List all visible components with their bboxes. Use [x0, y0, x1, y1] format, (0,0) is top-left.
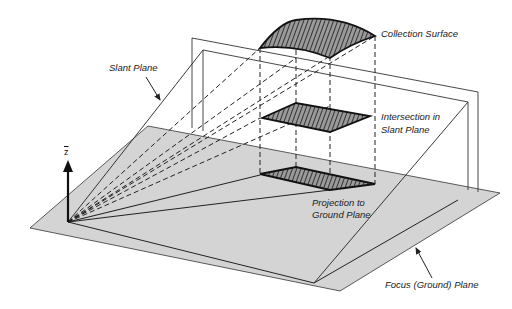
slant-plane-leader-arrow	[146, 77, 160, 100]
focus-ground-plane	[30, 126, 500, 291]
collection-surface-label: Collection Surface	[381, 28, 458, 40]
collection-surface	[260, 19, 375, 58]
z-axis-label: z	[64, 147, 69, 157]
ground-plane-leader-arrow	[416, 248, 432, 278]
intersection-label-line2: Slant Plane	[381, 124, 430, 136]
projection-label-line1: Projection to	[312, 197, 365, 209]
intersection-patch	[262, 103, 370, 132]
focus-ground-plane-label: Focus (Ground) Plane	[385, 279, 478, 291]
slant-plane-label: Slant Plane	[109, 62, 158, 74]
projection-label-line2: Ground Plane	[312, 209, 371, 221]
sar-geometry-diagram	[0, 0, 512, 309]
intersection-label-line1: Intersection in	[381, 111, 440, 123]
